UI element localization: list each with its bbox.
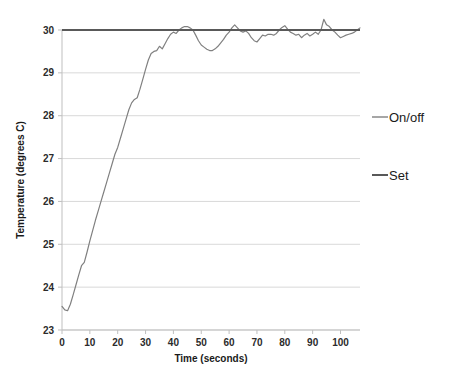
x-tick-label: 0 — [59, 337, 65, 348]
chart-legend: On/offSet — [372, 110, 425, 183]
x-tick-label: 30 — [140, 337, 152, 348]
x-tick-label: 70 — [251, 337, 263, 348]
x-tick-labels: 0102030405060708090100 — [59, 337, 349, 348]
x-tick-label: 10 — [84, 337, 96, 348]
legend-label-set: Set — [389, 168, 409, 183]
x-tick-label: 50 — [196, 337, 208, 348]
y-tick-label: 25 — [43, 239, 55, 250]
x-tick-label: 60 — [224, 337, 236, 348]
y-tick-label: 28 — [43, 110, 55, 121]
x-tick-label: 40 — [168, 337, 180, 348]
y-tick-label: 30 — [43, 25, 55, 36]
y-tick-label: 29 — [43, 67, 55, 78]
series-line-onoff — [62, 19, 360, 310]
x-axis-title: Time (seconds) — [174, 353, 247, 364]
y-tick-label: 23 — [43, 325, 55, 336]
x-tick-label: 90 — [307, 337, 319, 348]
x-tick-label: 20 — [112, 337, 124, 348]
line-chart: 2324252627282930 0102030405060708090100 … — [0, 0, 449, 387]
x-tick-label: 80 — [279, 337, 291, 348]
x-tick-label: 100 — [332, 337, 349, 348]
chart-figure: 2324252627282930 0102030405060708090100 … — [0, 0, 449, 387]
y-tick-label: 26 — [43, 196, 55, 207]
tick-marks — [58, 30, 341, 334]
y-axis-title: Temperature (degrees C) — [15, 121, 26, 239]
y-tick-label: 27 — [43, 153, 55, 164]
legend-label-on-off: On/off — [389, 110, 425, 125]
y-tick-labels: 2324252627282930 — [43, 25, 55, 336]
y-tick-label: 24 — [43, 282, 55, 293]
